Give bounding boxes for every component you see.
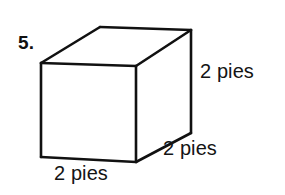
dimension-label-width: 2 pies (54, 163, 108, 183)
rectangular-prism-drawing (0, 0, 285, 195)
dimension-label-depth: 2 pies (163, 138, 217, 158)
geometry-figure: 5. 2 pies 2 pies 2 pies (0, 0, 285, 195)
problem-number: 5. (18, 33, 34, 52)
dimension-label-height: 2 pies (200, 61, 254, 81)
prism-front-face (41, 63, 136, 162)
